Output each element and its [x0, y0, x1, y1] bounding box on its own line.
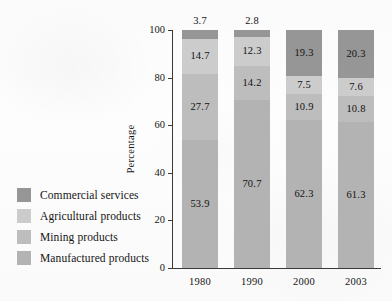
bar-segment[interactable]: 19.3	[286, 30, 322, 76]
y-tick-label: 0	[160, 263, 165, 274]
x-tick-label: 1980	[182, 276, 218, 287]
bar-stack[interactable]: 61.310.87.620.3	[338, 30, 374, 268]
bar-segment[interactable]: 53.9	[182, 140, 218, 268]
bar-segment[interactable]: 10.9	[286, 94, 322, 120]
bar-segment-value: 7.6	[349, 82, 363, 93]
bar-segment-value: 62.3	[294, 189, 313, 200]
bar-group: 62.310.97.519.32000	[286, 30, 322, 268]
legend-item: Manufactured products	[17, 249, 149, 267]
bar-segment[interactable]: 7.5	[286, 76, 322, 94]
bar-segment[interactable]	[182, 30, 218, 39]
legend-color-swatch	[17, 251, 31, 265]
bar-segment[interactable]: 14.2	[234, 66, 270, 100]
y-tick-label: 40	[155, 168, 166, 179]
legend-item: Agricultural products	[17, 207, 149, 225]
y-tick-mark	[168, 220, 172, 221]
bar-top-value-label: 2.8	[234, 15, 270, 26]
bar-segment[interactable]: 10.8	[338, 96, 374, 122]
bar-segment-value: 53.9	[190, 199, 209, 210]
bar-segment[interactable]	[234, 30, 270, 37]
bar-segment[interactable]: 7.6	[338, 78, 374, 96]
legend-color-swatch	[17, 209, 31, 223]
bar-group: 61.310.87.620.32003	[338, 30, 374, 268]
bar-segment[interactable]: 27.7	[182, 74, 218, 140]
bar-segment-value: 20.3	[346, 49, 365, 60]
bar-segment-value: 14.7	[190, 51, 209, 62]
y-tick-mark	[168, 125, 172, 126]
plot-area: Percentage 020406080100 53.927.714.73.71…	[172, 30, 380, 268]
bar-stack[interactable]: 53.927.714.73.7	[182, 30, 218, 268]
bar-segment-value: 10.9	[294, 102, 313, 113]
chart-legend: Commercial servicesAgricultural products…	[17, 186, 149, 270]
y-tick-label: 100	[149, 25, 165, 36]
y-axis-line	[172, 30, 173, 268]
bar-group: 70.714.212.32.81990	[234, 30, 270, 268]
y-tick-label: 60	[155, 120, 166, 131]
legend-color-swatch	[17, 230, 31, 244]
bar-segment[interactable]: 14.7	[182, 39, 218, 74]
bar-segment-value: 27.7	[190, 102, 209, 113]
legend-item: Commercial services	[17, 186, 149, 204]
bar-segment-value: 14.2	[242, 78, 261, 89]
legend-color-swatch	[17, 188, 31, 202]
legend-item-label: Agricultural products	[40, 210, 141, 222]
bar-segment-value: 7.5	[297, 80, 311, 91]
bar-group: 53.927.714.73.71980	[182, 30, 218, 268]
bar-segment[interactable]: 20.3	[338, 30, 374, 78]
y-tick-mark	[168, 173, 172, 174]
y-axis-title: Percentage	[125, 124, 136, 173]
bar-segment-value: 61.3	[346, 190, 365, 201]
legend-item: Mining products	[17, 228, 149, 246]
bar-segment-value: 70.7	[242, 179, 261, 190]
bar-top-value-label: 3.7	[182, 15, 218, 26]
x-tick-label: 1990	[234, 276, 270, 287]
x-tick-label: 2000	[286, 276, 322, 287]
bar-segment-value: 12.3	[242, 46, 261, 57]
bar-stack[interactable]: 70.714.212.32.8	[234, 30, 270, 268]
legend-item-label: Mining products	[40, 231, 118, 243]
bar-segment-value: 19.3	[294, 48, 313, 59]
legend-item-label: Manufactured products	[40, 252, 149, 264]
y-tick-label: 20	[155, 215, 166, 226]
y-tick-label: 80	[155, 72, 166, 83]
bar-segment[interactable]: 70.7	[234, 100, 270, 268]
y-tick-mark	[168, 268, 172, 269]
bar-segment-value: 10.8	[346, 104, 365, 115]
bar-segment[interactable]: 61.3	[338, 122, 374, 268]
bar-segment[interactable]: 12.3	[234, 37, 270, 66]
legend-item-label: Commercial services	[40, 189, 139, 201]
bar-segment[interactable]: 62.3	[286, 120, 322, 268]
x-axis-line	[172, 268, 381, 269]
y-tick-mark	[168, 30, 172, 31]
x-tick-label: 2003	[338, 276, 374, 287]
y-tick-mark	[168, 78, 172, 79]
bar-stack[interactable]: 62.310.97.519.3	[286, 30, 322, 268]
stacked-bar-chart-figure: Commercial servicesAgricultural products…	[0, 0, 392, 301]
